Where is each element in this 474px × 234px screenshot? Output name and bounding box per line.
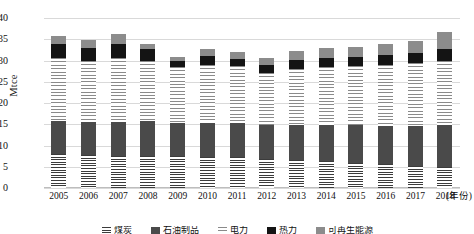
bar-segment [437,49,452,61]
bar-group [371,18,401,188]
bar-segment [408,166,423,188]
bar-segment [348,125,363,162]
x-axis-tick-label: 2014 [311,191,341,202]
bar-segment [289,160,304,188]
bar-segment [81,122,96,155]
x-axis-tick-label: 2007 [103,191,133,202]
bar-segment [348,47,363,57]
bar-segment [200,123,215,157]
bar-segment [437,61,452,125]
legend-swatch [218,227,227,234]
bar-segment [51,121,66,154]
stacked-bar [289,51,304,188]
chart-legend: 煤炭石油制品电力热力可再生能源 [0,226,474,234]
bar-segment [200,157,215,188]
bar-group [341,18,371,188]
legend-item: 电力 [218,226,248,234]
y-axis-tick-label: 40 [0,13,8,23]
stacked-bar [319,48,334,188]
x-axis-tick-label: 2015 [341,191,371,202]
bar-group [74,18,104,188]
bar-group [163,18,193,188]
y-axis-tick-label: 10 [0,141,8,151]
bar-segment [200,65,215,123]
bar-segment [51,44,66,58]
bar-segment [259,65,274,73]
stacked-bar [111,34,126,188]
legend-swatch [151,227,160,234]
bar-group [133,18,163,188]
bar-segment [289,60,304,69]
bar-group [282,18,312,188]
legend-label: 煤炭 [114,226,132,234]
bar-segment [289,69,304,125]
bar-segment [378,164,393,188]
bar-segment [378,126,393,165]
x-axis-tick-label: 2006 [74,191,104,202]
bar-segment [81,40,96,48]
bar-segment [408,126,423,166]
bar-group [44,18,74,188]
x-axis-tick-label: 2010 [193,191,223,202]
bar-group [222,18,252,188]
bar-group [103,18,133,188]
y-axis-tick-label: 15 [0,119,8,129]
bar-segment [140,61,155,121]
bar-segment [111,44,126,59]
bar-series-container [44,18,460,188]
bar-segment [200,56,215,65]
bar-segment [170,67,185,123]
bar-segment [51,154,66,188]
stacked-bar [259,58,274,188]
bar-segment [111,58,126,121]
y-axis-tick-label: 25 [0,77,8,87]
bar-segment [319,161,334,188]
bar-segment [230,123,245,157]
x-axis-tick-label: 2008 [133,191,163,202]
bar-segment [230,66,245,123]
legend-swatch [102,227,111,234]
bar-segment [140,49,155,61]
bar-segment [259,58,274,65]
x-axis-tick-label: 2009 [163,191,193,202]
stacked-bar [200,49,215,188]
bar-segment [348,57,363,67]
x-axis-tick-label: 2013 [282,191,312,202]
legend-label: 石油制品 [163,226,199,234]
legend-label: 可再生能源 [328,226,373,234]
stacked-bar [230,52,245,188]
bar-segment [408,41,423,53]
y-axis-tick-label: 30 [0,56,8,66]
stacked-bar [140,44,155,188]
stacked-bar [81,40,96,188]
bar-segment [408,53,423,63]
bar-segment [51,36,66,45]
bar-segment [51,58,66,121]
legend-item: 热力 [267,226,297,234]
stacked-bar-chart: Mtce 4035302520151050 200520062007200820… [0,0,474,234]
x-axis-tick-label: 2016 [371,191,401,202]
bar-segment [289,51,304,60]
bar-segment [319,48,334,58]
bar-segment [259,73,274,125]
bar-segment [230,59,245,66]
stacked-bar [170,57,185,188]
bar-segment [289,125,304,160]
bar-group [430,18,460,188]
plot-area [44,18,460,188]
bar-segment [319,125,334,162]
bar-segment [259,159,274,188]
bar-segment [111,122,126,156]
bar-segment [81,61,96,122]
y-axis-tick-label: 5 [0,162,8,172]
bar-segment [319,58,334,67]
stacked-bar [437,32,452,188]
bar-segment [408,63,423,125]
bar-segment [140,156,155,188]
x-axis-tick-label: 2005 [44,191,74,202]
bar-segment [378,44,393,55]
bar-segment [140,121,155,155]
bar-group [252,18,282,188]
bar-segment [259,125,274,159]
bar-segment [378,65,393,125]
